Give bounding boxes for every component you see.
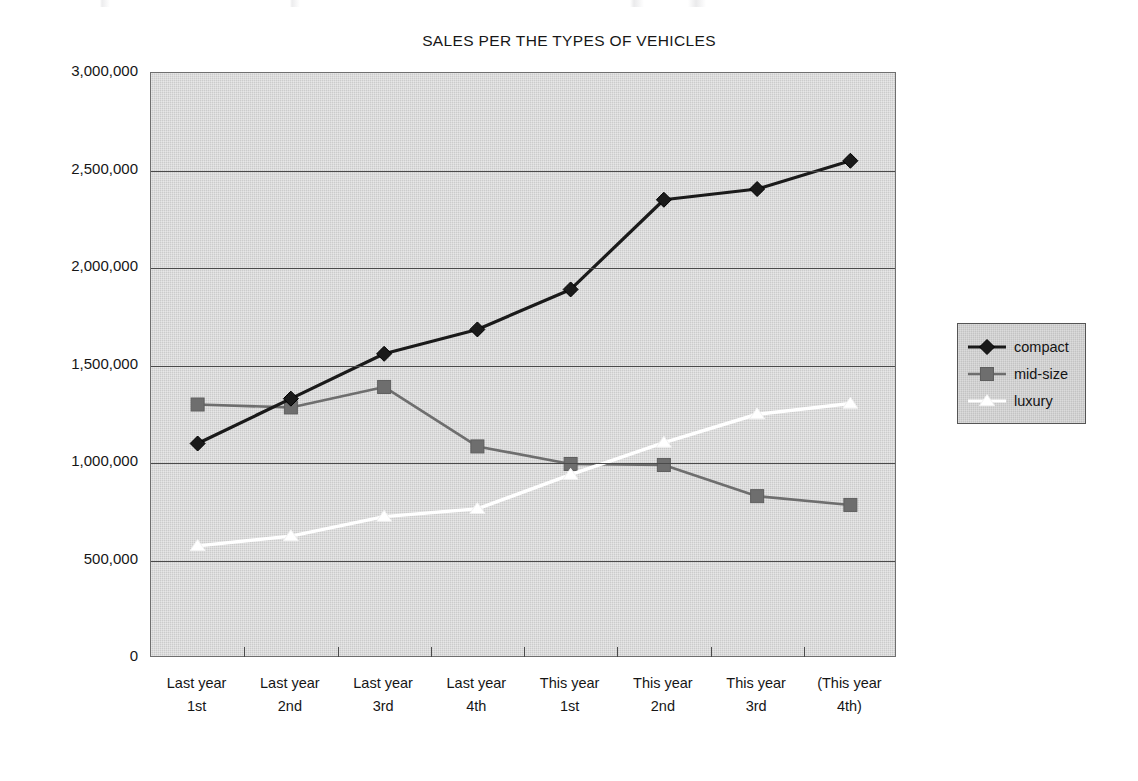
series-luxury xyxy=(190,397,858,550)
x-axis-tick-label: This year3rd xyxy=(710,672,803,718)
legend-swatch-square-icon xyxy=(967,365,1007,383)
chart-legend: compactmid-sizeluxury xyxy=(957,323,1086,424)
x-tick-label-line1: Last year xyxy=(260,675,320,691)
gridline-y xyxy=(151,268,895,269)
x-tick-label-line2: 3rd xyxy=(337,695,430,718)
data-point-mid-size-6 xyxy=(657,458,670,471)
gridline-y xyxy=(151,366,895,367)
gridline-y xyxy=(151,171,895,172)
legend-item-compact[interactable]: compact xyxy=(967,333,1077,360)
legend-marker-square xyxy=(981,367,994,380)
data-point-mid-size-8 xyxy=(844,498,857,511)
chart-title: SALES PER THE TYPES OF VEHICLES xyxy=(0,32,1138,50)
legend-marker-icon xyxy=(967,392,1007,410)
legend-marker-icon xyxy=(967,365,1007,383)
scan-artifact-top xyxy=(100,0,720,7)
x-axis-tick-label: This year1st xyxy=(523,672,616,718)
x-axis-tick-label: This year2nd xyxy=(616,672,709,718)
y-axis-tick-label: 2,500,000 xyxy=(8,160,138,177)
y-axis-tick-label: 1,000,000 xyxy=(8,452,138,469)
x-tick-label-line2: 2nd xyxy=(243,695,336,718)
x-axis-tick-mark xyxy=(804,647,805,657)
y-axis-tick-label: 500,000 xyxy=(8,550,138,567)
legend-marker-icon xyxy=(967,338,1007,356)
x-tick-label-line1: This year xyxy=(726,675,786,691)
x-axis-tick-mark xyxy=(338,647,339,657)
x-axis-tick-mark xyxy=(711,647,712,657)
y-axis-tick-label: 3,000,000 xyxy=(8,62,138,79)
x-axis-tick-label: (This year4th) xyxy=(803,672,896,718)
legend-swatch-diamond-icon xyxy=(967,338,1007,356)
chart-figure: SALES PER THE TYPES OF VEHICLES 0500,000… xyxy=(0,0,1138,781)
x-tick-label-line1: (This year xyxy=(817,675,881,691)
gridline-y xyxy=(151,463,895,464)
data-point-mid-size-4 xyxy=(471,440,484,453)
x-axis-tick-mark xyxy=(617,647,618,657)
legend-marker-diamond xyxy=(980,339,995,354)
y-axis-tick-labels: 0500,0001,000,0001,500,0002,000,0002,500… xyxy=(0,0,138,781)
x-tick-label-line2: 2nd xyxy=(616,695,709,718)
plot-area xyxy=(150,72,896,657)
y-axis-tick-label: 0 xyxy=(8,647,138,664)
y-axis-tick-label: 1,500,000 xyxy=(8,355,138,372)
legend-swatch-triangle-icon xyxy=(967,392,1007,410)
data-point-compact-1 xyxy=(190,436,205,451)
x-axis-tick-label: Last year1st xyxy=(150,672,243,718)
data-point-compact-3 xyxy=(377,346,392,361)
data-point-mid-size-1 xyxy=(191,398,204,411)
x-axis-tick-label: Last year4th xyxy=(430,672,523,718)
legend-label: luxury xyxy=(1014,393,1053,409)
x-tick-label-line2: 3rd xyxy=(710,695,803,718)
x-tick-label-line1: Last year xyxy=(353,675,413,691)
x-axis-tick-mark xyxy=(244,647,245,657)
x-tick-label-line1: This year xyxy=(633,675,693,691)
x-tick-label-line2: 1st xyxy=(523,695,616,718)
x-tick-label-line1: Last year xyxy=(167,675,227,691)
legend-item-mid-size[interactable]: mid-size xyxy=(967,360,1077,387)
data-point-mid-size-7 xyxy=(751,490,764,503)
legend-item-luxury[interactable]: luxury xyxy=(967,387,1077,414)
x-axis-tick-mark xyxy=(524,647,525,657)
x-tick-label-line2: 1st xyxy=(150,695,243,718)
series-line-luxury xyxy=(198,404,851,546)
x-axis-tick-mark xyxy=(431,647,432,657)
data-point-mid-size-3 xyxy=(378,380,391,393)
x-axis-tick-label: Last year3rd xyxy=(337,672,430,718)
data-point-compact-8 xyxy=(843,153,858,168)
gridline-y xyxy=(151,561,895,562)
x-tick-label-line2: 4th xyxy=(430,695,523,718)
legend-label: mid-size xyxy=(1014,366,1068,382)
x-tick-label-line1: This year xyxy=(540,675,600,691)
y-axis-tick-label: 2,000,000 xyxy=(8,257,138,274)
legend-label: compact xyxy=(1014,339,1069,355)
x-tick-label-line2: 4th) xyxy=(803,695,896,718)
x-axis-tick-label: Last year2nd xyxy=(243,672,336,718)
x-tick-label-line1: Last year xyxy=(447,675,507,691)
data-point-compact-7 xyxy=(750,182,765,197)
data-point-compact-4 xyxy=(470,322,485,337)
